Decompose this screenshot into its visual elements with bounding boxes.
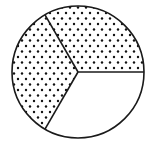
fraction-circle-svg (0, 0, 156, 144)
fraction-circle-figure: Circle divided into three equal parts, t… (0, 0, 156, 144)
